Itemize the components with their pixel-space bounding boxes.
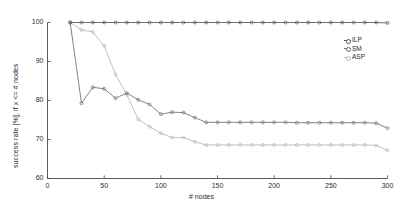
x-tick-label: 300 (373, 182, 403, 189)
series-layer (69, 21, 389, 152)
y-tick-label: 100 (22, 18, 44, 25)
legend-item-ilp: ILP (344, 36, 365, 45)
series-line-asp (70, 23, 387, 151)
data-point-marker (386, 127, 389, 130)
line-chart-plot (0, 0, 403, 210)
legend-marker-icon (344, 37, 351, 44)
legend-label: ASP (352, 53, 365, 62)
legend-marker-icon (344, 45, 351, 52)
legend-item-sm: SM (344, 45, 365, 54)
x-tick-label: 100 (146, 182, 176, 189)
axis-lines (48, 23, 388, 179)
x-tick-label: 150 (203, 182, 233, 189)
x-axis-label: # nodes (0, 193, 403, 200)
series-line-sm (70, 23, 387, 129)
legend-label: ILP (352, 36, 362, 45)
tick-marks (48, 23, 388, 179)
chart-legend: ILP SM ASP (344, 36, 365, 62)
legend-marker-icon (344, 54, 351, 61)
y-tick-label: 90 (22, 57, 44, 64)
y-tick-label: 60 (22, 174, 44, 181)
legend-item-asp: ASP (344, 53, 365, 62)
x-tick-label: 50 (89, 182, 119, 189)
chart-figure: success rate [%], if x <= # nodes # node… (0, 0, 403, 210)
legend-label: SM (352, 45, 362, 54)
x-tick-label: 200 (259, 182, 289, 189)
y-tick-label: 70 (22, 135, 44, 142)
y-axis-label: success rate [%], if x <= # nodes (12, 64, 19, 168)
y-tick-label: 80 (22, 96, 44, 103)
x-tick-label: 0 (33, 182, 63, 189)
x-tick-label: 250 (316, 182, 346, 189)
